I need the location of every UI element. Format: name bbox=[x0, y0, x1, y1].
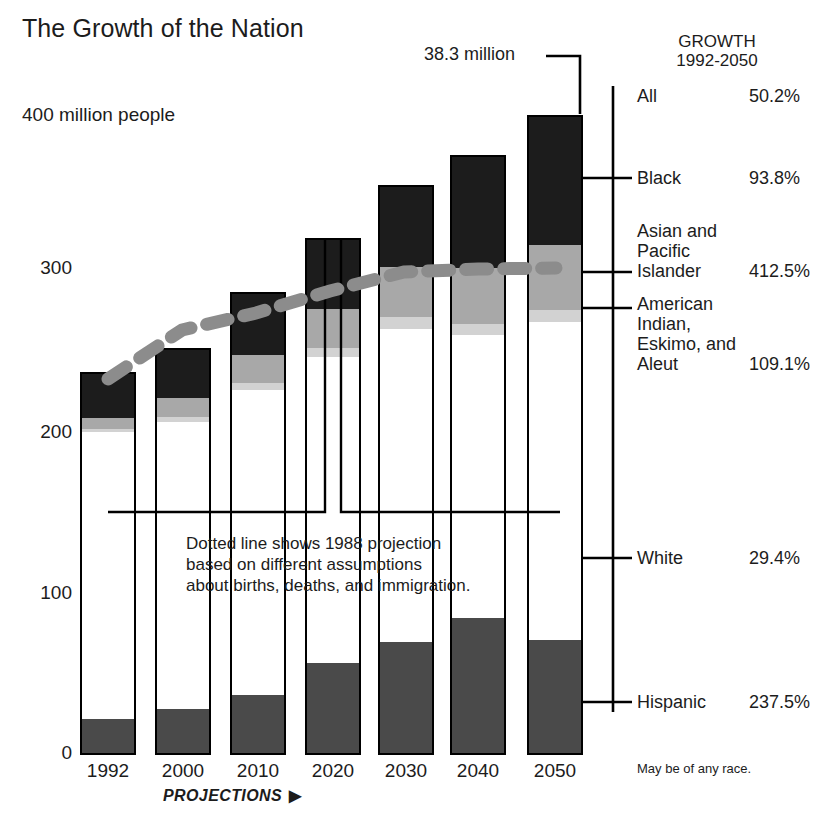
legend-pct-american-indian: 109.1% bbox=[749, 354, 831, 375]
x-tick-2000: 2000 bbox=[146, 760, 220, 782]
segment-white-1992 bbox=[82, 432, 134, 719]
y-axis-unit-label: 400 million people bbox=[22, 104, 175, 126]
segment-hispanic-1992 bbox=[82, 719, 134, 755]
segment-amind-2040 bbox=[452, 324, 504, 335]
segment-amind-2030 bbox=[380, 317, 432, 329]
legend-label-all: All bbox=[637, 86, 749, 106]
annotation-note: Dotted line shows 1988 projection based … bbox=[186, 533, 470, 596]
legend-label-black: Black bbox=[637, 168, 749, 188]
y-tick-100: 100 bbox=[0, 582, 72, 604]
x-tick-2020: 2020 bbox=[296, 760, 370, 782]
legend-label-american-indian: American Indian, Eskimo, and Aleut bbox=[637, 294, 749, 374]
segment-asian-1992 bbox=[82, 418, 134, 429]
bar-2050[interactable] bbox=[527, 115, 583, 755]
segment-hispanic-2040 bbox=[452, 618, 504, 755]
segment-asian-2040 bbox=[452, 268, 504, 324]
legend-label-white: White bbox=[637, 548, 749, 568]
legend-label-asian-pacific-islander: Asian and Pacific Islander bbox=[637, 221, 749, 281]
callout-38-3-million: 38.3 million bbox=[424, 44, 515, 65]
x-tick-1992: 1992 bbox=[71, 760, 145, 782]
y-tick-200: 200 bbox=[0, 421, 72, 443]
bar-2030[interactable] bbox=[378, 185, 434, 755]
segment-amind-2010 bbox=[232, 383, 284, 390]
segment-hispanic-2020 bbox=[307, 663, 359, 755]
page-title: The Growth of the Nation bbox=[22, 14, 304, 43]
triangle-right-icon: ▶ bbox=[289, 786, 301, 805]
segment-black-2010 bbox=[232, 294, 284, 355]
y-tick-0: 0 bbox=[0, 742, 72, 764]
segment-black-2050 bbox=[529, 117, 581, 245]
legend-pct-white: 29.4% bbox=[749, 548, 831, 569]
x-tick-2010: 2010 bbox=[221, 760, 295, 782]
x-tick-2030: 2030 bbox=[369, 760, 443, 782]
legend-pct-black: 93.8% bbox=[749, 168, 831, 189]
projections-label: PROJECTIONS bbox=[163, 787, 282, 804]
legend-label-hispanic: Hispanic bbox=[637, 692, 749, 712]
segment-black-1992 bbox=[82, 374, 134, 418]
segment-asian-2010 bbox=[232, 355, 284, 383]
legend-pct-hispanic: 237.5% bbox=[749, 692, 831, 713]
bar-2040[interactable] bbox=[450, 155, 506, 755]
segment-black-2020 bbox=[307, 240, 359, 309]
x-tick-2050: 2050 bbox=[518, 760, 592, 782]
chart-canvas: The Growth of the Nation 400 million peo… bbox=[0, 0, 831, 831]
legend-pct-asian-pacific-islander: 412.5% bbox=[749, 261, 831, 282]
legend-title: GROWTH 1992-2050 bbox=[637, 32, 797, 70]
callout-leader-line bbox=[546, 56, 580, 114]
x-tick-2040: 2040 bbox=[441, 760, 515, 782]
segment-hispanic-2030 bbox=[380, 642, 432, 755]
segment-hispanic-2010 bbox=[232, 695, 284, 755]
segment-black-2030 bbox=[380, 187, 432, 267]
legend-pct-all: 50.2% bbox=[749, 86, 831, 107]
segment-black-2000 bbox=[157, 350, 209, 398]
y-tick-300: 300 bbox=[0, 257, 72, 279]
legend-footnote: May be of any race. bbox=[637, 761, 831, 776]
segment-black-2040 bbox=[452, 157, 504, 268]
legend-leader-lines bbox=[583, 86, 632, 712]
segment-asian-2030 bbox=[380, 267, 432, 317]
bar-1992[interactable] bbox=[80, 372, 136, 755]
segment-amind-2050 bbox=[529, 310, 581, 322]
bar-2020[interactable] bbox=[305, 238, 361, 755]
bar-2010[interactable] bbox=[230, 292, 286, 755]
projections-note: PROJECTIONS▶ bbox=[163, 786, 302, 805]
segment-white-2050 bbox=[529, 322, 581, 640]
segment-hispanic-2050 bbox=[529, 640, 581, 755]
segment-hispanic-2000 bbox=[157, 709, 209, 755]
segment-asian-2000 bbox=[157, 398, 209, 417]
segment-white-2020 bbox=[307, 357, 359, 663]
segment-asian-2020 bbox=[307, 309, 359, 348]
segment-asian-2050 bbox=[529, 245, 581, 310]
segment-amind-2020 bbox=[307, 348, 359, 357]
